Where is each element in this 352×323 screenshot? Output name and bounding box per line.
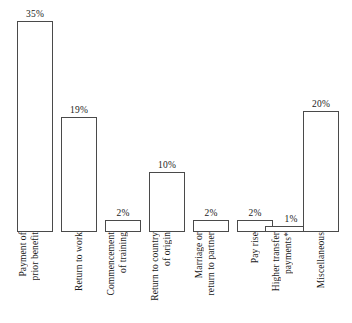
bar-value-label: 2% [105,208,141,219]
category-label-line: Commencement [105,232,117,298]
bar-rect[interactable] [105,220,141,232]
bar-rect[interactable] [17,21,53,232]
category-label-line: of training [117,232,129,276]
bar-group: 20% [303,0,339,232]
bar-chart: 35% 19% 2% 10% 2% 2% 1% 20% [0,0,352,323]
bar-rect[interactable] [149,172,185,232]
bar-value-label: 19% [61,105,97,116]
bar-group: 2% [193,0,229,232]
category-label-line: Higher transfer [270,232,282,294]
bar-rect[interactable] [61,117,97,232]
category-label-line: Return to country [149,232,161,304]
bar-rect[interactable] [193,220,229,232]
category-label-line: Return to work [73,232,85,294]
category-label-line: Miscellaneous [315,232,327,291]
category-labels-area: Payment of prior benefit Return to work … [0,232,352,323]
category-label-line: prior benefit [29,232,41,284]
bar-rect[interactable] [303,111,339,232]
plot-area: 35% 19% 2% 10% 2% 2% 1% 20% [0,0,352,232]
category-label-return-to-country-of-origin: Return to country of origin [149,232,185,323]
category-label-marriage-or-return-to-partner: Marriage or return to partner [193,232,229,323]
category-label-line: return to partner [205,232,217,298]
bar-group: 2% [105,0,141,232]
category-label-line: Marriage or [193,232,205,281]
bar-group: 19% [61,0,97,232]
bar-value-label: 20% [303,99,339,110]
category-label-payment-of-prior-benefit: Payment of prior benefit [17,232,53,323]
bar-group: 10% [149,0,185,232]
category-label-miscellaneous: Miscellaneous [303,232,339,323]
bar-value-label: 35% [17,9,53,20]
category-label-pay-rise: Pay rise [237,232,273,323]
bar-value-label: 10% [149,160,185,171]
category-label-line: of origin [161,232,173,269]
category-label-line: Pay rise [249,232,261,266]
category-label-commencement-of-training: Commencement of training [105,232,141,323]
bar-group: 35% [17,0,53,232]
category-label-line: payments* [282,232,294,277]
bar-value-label: 2% [193,208,229,219]
category-label-line: Payment of [17,232,29,280]
category-label-return-to-work: Return to work [61,232,97,323]
